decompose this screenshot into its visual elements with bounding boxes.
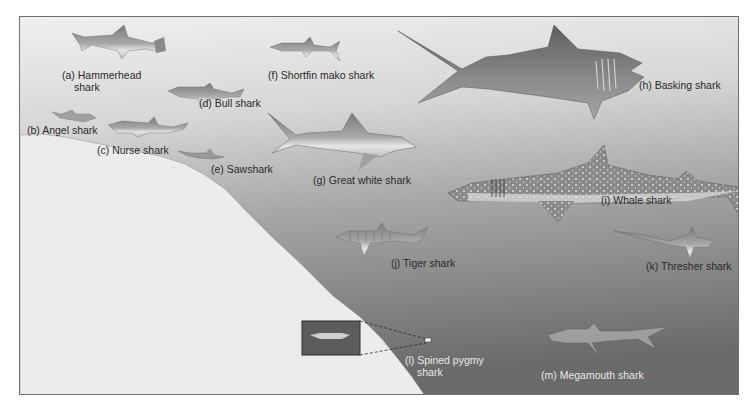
label-basking-shark: (h) Basking shark bbox=[639, 79, 721, 91]
label-text: (j) Tiger shark bbox=[391, 257, 455, 269]
label-shortfin-mako-shark: (f) Shortfin mako shark bbox=[268, 69, 374, 81]
label-text: (e) Sawshark bbox=[211, 163, 273, 175]
label-text: (b) Angel shark bbox=[27, 124, 98, 136]
label-text: (i) Whale shark bbox=[601, 194, 672, 206]
label-spined-pygmy-shark: (l) Spined pygmy shark bbox=[405, 354, 484, 378]
label-nurse-shark: (c) Nurse shark bbox=[97, 144, 169, 156]
label-text: (f) Shortfin mako shark bbox=[268, 69, 374, 81]
label-text: (d) Bull shark bbox=[199, 97, 261, 109]
label-line: shark bbox=[405, 366, 484, 378]
label-line: shark bbox=[62, 81, 141, 93]
label-tiger-shark: (j) Tiger shark bbox=[391, 257, 455, 269]
label-angel-shark: (b) Angel shark bbox=[27, 124, 98, 136]
label-line: (l) Spined pygmy bbox=[405, 354, 484, 366]
label-line: (a) Hammerhead bbox=[62, 69, 141, 81]
label-text: (c) Nurse shark bbox=[97, 144, 169, 156]
label-great-white-shark: (g) Great white shark bbox=[313, 174, 411, 186]
label-text: (g) Great white shark bbox=[313, 174, 411, 186]
label-hammerhead-shark: (a) Hammerhead shark bbox=[62, 69, 141, 93]
shark-diversity-figure: (a) Hammerhead shark (b) Angel shark (c)… bbox=[19, 16, 739, 395]
label-megamouth-shark: (m) Megamouth shark bbox=[541, 369, 644, 381]
label-text: (k) Thresher shark bbox=[646, 260, 732, 272]
label-thresher-shark: (k) Thresher shark bbox=[646, 260, 732, 272]
label-text: (h) Basking shark bbox=[639, 79, 721, 91]
label-sawshark: (e) Sawshark bbox=[211, 163, 273, 175]
label-whale-shark: (i) Whale shark bbox=[601, 194, 672, 206]
label-bull-shark: (d) Bull shark bbox=[199, 97, 261, 109]
label-text: (m) Megamouth shark bbox=[541, 369, 644, 381]
